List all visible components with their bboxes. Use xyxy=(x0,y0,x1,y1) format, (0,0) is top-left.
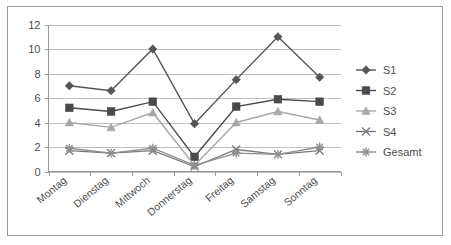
chart-legend: S1S2S3S4Gesamt xyxy=(356,64,422,158)
legend-item-s2[interactable]: S2 xyxy=(356,85,396,97)
data-point-marker xyxy=(65,144,74,153)
data-point-marker xyxy=(149,98,157,106)
y-axis-tick-label: 0 xyxy=(34,166,40,178)
data-point-marker xyxy=(315,143,324,152)
data-point-marker xyxy=(148,144,157,153)
y-axis-tick-label: 8 xyxy=(34,68,40,80)
y-axis-tick-labels: 024681012 xyxy=(28,19,40,178)
x-axis-category-label: Samstag xyxy=(238,174,278,210)
x-axis-category-label: Donnerstag xyxy=(144,174,193,218)
data-point-marker xyxy=(362,148,371,157)
x-axis-category-labels: MontagDienstagMittwochDonnerstagFreitagS… xyxy=(34,174,319,218)
x-axis-category-label: Mittwoch xyxy=(113,174,153,210)
legend-label: S4 xyxy=(383,126,396,138)
data-point-marker xyxy=(149,109,157,117)
y-axis-tick-label: 10 xyxy=(28,43,40,55)
legend-label: S2 xyxy=(383,85,396,97)
data-point-marker xyxy=(274,150,283,159)
y-axis-tick-label: 6 xyxy=(34,92,40,104)
data-point-marker xyxy=(65,118,73,126)
data-point-marker xyxy=(274,95,282,103)
data-point-marker xyxy=(362,87,370,95)
data-point-marker xyxy=(190,161,199,170)
x-axis-category-label: Freitag xyxy=(203,174,236,204)
data-point-marker xyxy=(232,103,240,111)
y-axis-tick-label: 2 xyxy=(34,141,40,153)
data-point-marker xyxy=(65,82,73,90)
legend-item-s4[interactable]: S4 xyxy=(356,126,396,138)
data-point-marker xyxy=(274,107,282,115)
data-point-marker xyxy=(232,149,241,158)
data-point-marker xyxy=(362,66,370,74)
data-point-marker xyxy=(191,153,199,161)
legend-item-gesamt[interactable]: Gesamt xyxy=(356,146,422,158)
x-axis-category-label: Sonntag xyxy=(281,174,319,208)
legend-item-s1[interactable]: S1 xyxy=(356,64,396,76)
x-axis-category-label: Montag xyxy=(34,174,69,206)
y-axis-tick-label: 12 xyxy=(28,19,40,31)
y-axis-tick-label: 4 xyxy=(34,117,40,129)
legend-label: S1 xyxy=(383,64,396,76)
series-layer xyxy=(65,33,324,171)
data-point-marker xyxy=(107,149,116,158)
legend-label: Gesamt xyxy=(383,146,422,158)
x-axis-category-label: Dienstag xyxy=(71,174,111,210)
data-point-marker xyxy=(107,108,115,116)
chart-container: 024681012 MontagDienstagMittwochDonnerst… xyxy=(0,0,451,245)
data-point-marker xyxy=(66,104,74,112)
legend-item-s3[interactable]: S3 xyxy=(356,105,396,117)
legend-label: S3 xyxy=(383,105,396,117)
data-point-marker xyxy=(316,98,324,106)
line-chart: 024681012 MontagDienstagMittwochDonnerst… xyxy=(0,0,451,245)
